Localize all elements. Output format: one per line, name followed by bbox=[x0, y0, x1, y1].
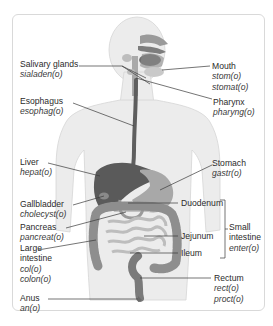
label-pharynx: Pharynx pharyng(o) bbox=[213, 97, 255, 118]
label-name-line1: Small bbox=[229, 222, 261, 232]
label-root: stomat(o) bbox=[212, 82, 248, 92]
label-root: proct(o) bbox=[214, 294, 244, 304]
label-root: pancreat(o) bbox=[20, 232, 64, 242]
label-name: Ileum bbox=[181, 248, 202, 258]
label-root: esophag(o) bbox=[20, 106, 63, 116]
label-root: hepat(o) bbox=[20, 167, 52, 177]
label-name: Gallbladder bbox=[20, 199, 66, 209]
label-name-line1: Large bbox=[20, 243, 52, 253]
label-name: Duodenum bbox=[181, 198, 223, 208]
label-ileum: Ileum bbox=[181, 248, 202, 258]
label-root: col(o) bbox=[20, 264, 52, 274]
label-anus: Anus an(o) bbox=[20, 293, 40, 314]
label-name: Anus bbox=[20, 293, 40, 303]
label-liver: Liver hepat(o) bbox=[20, 157, 52, 178]
label-root: an(o) bbox=[20, 303, 40, 313]
label-root: gastr(o) bbox=[212, 168, 246, 178]
label-name: Salivary glands bbox=[20, 59, 78, 69]
label-name-line2: intestine bbox=[20, 253, 52, 263]
label-rectum: Rectum rect(o) proct(o) bbox=[214, 273, 244, 304]
label-name: Stomach bbox=[212, 158, 246, 168]
label-small-intestine: Small intestine enter(o) bbox=[229, 222, 261, 253]
label-name: Rectum bbox=[214, 273, 244, 283]
label-root: pharyng(o) bbox=[213, 107, 255, 117]
label-name: Esophagus bbox=[20, 96, 63, 106]
label-root: enter(o) bbox=[229, 243, 261, 253]
label-root: rect(o) bbox=[214, 283, 244, 293]
label-duodenum: Duodenum bbox=[181, 198, 223, 208]
label-salivary-glands: Salivary glands sialaden(o) bbox=[20, 59, 78, 80]
label-large-intestine: Large intestine col(o) colon(o) bbox=[20, 243, 52, 285]
label-root: cholecyst(o) bbox=[20, 209, 66, 219]
label-name-line2: intestine bbox=[229, 232, 261, 242]
label-mouth: Mouth stom(o) stomat(o) bbox=[212, 61, 248, 92]
label-stomach: Stomach gastr(o) bbox=[212, 158, 246, 179]
label-root: colon(o) bbox=[20, 274, 52, 284]
label-name: Pancreas bbox=[20, 222, 64, 232]
label-name: Liver bbox=[20, 157, 52, 167]
label-name: Pharynx bbox=[213, 97, 255, 107]
label-root: sialaden(o) bbox=[20, 69, 78, 79]
label-jejunum: Jejunum bbox=[181, 231, 213, 241]
label-root: stom(o) bbox=[212, 71, 248, 81]
label-name: Mouth bbox=[212, 61, 248, 71]
label-name: Jejunum bbox=[181, 231, 213, 241]
label-gallbladder: Gallbladder cholecyst(o) bbox=[20, 199, 66, 220]
label-esophagus: Esophagus esophag(o) bbox=[20, 96, 63, 117]
label-pancreas: Pancreas pancreat(o) bbox=[20, 222, 64, 243]
